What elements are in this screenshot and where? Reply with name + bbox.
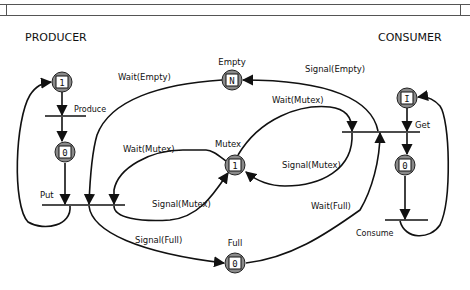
wait-empty-label: Wait(Empty) xyxy=(118,72,171,82)
mutex-label: Mutex xyxy=(215,139,241,149)
consumer-ready-place[interactable]: I xyxy=(397,88,417,108)
full-tokens: 0 xyxy=(232,259,237,269)
consumer-got-tokens: 0 xyxy=(402,161,407,171)
arc-signal-empty xyxy=(243,80,378,131)
full-label: Full xyxy=(228,238,243,248)
get-label: Get xyxy=(415,120,431,130)
arc-wait-full xyxy=(246,133,380,263)
empty-label: Empty xyxy=(218,57,245,67)
producer-produced-tokens: 0 xyxy=(62,148,67,158)
put-label: Put xyxy=(40,190,54,200)
producer-ready-place[interactable]: 1 xyxy=(52,72,72,92)
producer-produced-place[interactable]: 0 xyxy=(55,142,75,162)
signal-full-label: Signal(Full) xyxy=(135,235,182,245)
arc-wait-mutex-consumer xyxy=(238,107,352,155)
produce-label: Produce xyxy=(74,105,106,114)
petri-net-diagram: PRODUCER CONSUMER Produce Put Wait(Empty… xyxy=(0,0,470,290)
consume-label: Consume xyxy=(356,229,394,238)
mutex-place[interactable]: 1 xyxy=(225,155,245,175)
signal-empty-label: Signal(Empty) xyxy=(305,64,365,74)
arc-wait-mutex-producer xyxy=(114,150,226,204)
full-place[interactable]: 0 xyxy=(225,253,245,273)
consumer-title: CONSUMER xyxy=(378,31,442,44)
wait-mutex-consumer-label: Wait(Mutex) xyxy=(272,95,324,105)
mutex-tokens: 1 xyxy=(232,161,237,171)
arc-wait-empty xyxy=(89,80,222,204)
signal-mutex-consumer-label: Signal(Mutex) xyxy=(282,160,341,170)
empty-place[interactable]: N xyxy=(222,70,242,90)
wait-mutex-producer-label: Wait(Mutex) xyxy=(123,144,175,154)
producer-title: PRODUCER xyxy=(25,31,87,44)
consumer-got-place[interactable]: 0 xyxy=(395,155,415,175)
wait-full-label: Wait(Full) xyxy=(311,201,351,211)
signal-mutex-producer-label: Signal(Mutex) xyxy=(152,199,211,209)
consumer-ready-tokens: I xyxy=(404,94,409,104)
arc-signal-mutex-producer xyxy=(114,173,228,220)
producer-ready-tokens: 1 xyxy=(59,78,64,88)
empty-tokens: N xyxy=(229,76,234,86)
